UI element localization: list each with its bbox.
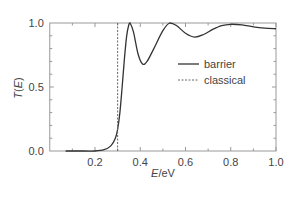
plot-frame xyxy=(50,23,276,151)
x-tick-label: 0.6 xyxy=(178,156,193,168)
y-axis-label: T(E) xyxy=(12,77,24,98)
y-tick-label: 1.0 xyxy=(28,17,43,29)
x-tick-label: 0.4 xyxy=(133,156,148,168)
x-tick-label: 0.8 xyxy=(223,156,238,168)
x-tick-label: 0.2 xyxy=(87,156,102,168)
y-tick-label: 0.5 xyxy=(28,81,43,93)
legend-classical-label: classical xyxy=(204,74,246,86)
series-barrier xyxy=(66,23,276,151)
transmission-chart: 0.20.40.60.81.00.00.51.0 barrier classic… xyxy=(0,0,293,197)
legend: barrier classical xyxy=(178,58,246,86)
plot-border xyxy=(50,23,276,151)
x-tick-label: 1.0 xyxy=(268,156,283,168)
y-tick-label: 0.0 xyxy=(28,145,43,157)
x-axis-label: E/eV xyxy=(151,167,176,179)
data-series xyxy=(66,23,276,151)
legend-barrier-label: barrier xyxy=(204,58,236,70)
tick-labels: 0.20.40.60.81.00.00.51.0 xyxy=(28,17,283,168)
axis-ticks xyxy=(50,23,276,151)
